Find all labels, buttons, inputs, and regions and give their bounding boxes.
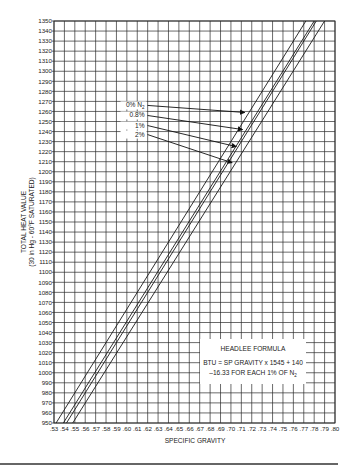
x-tick-label: .58 bbox=[102, 425, 111, 432]
y-tick-label: 1240 bbox=[38, 128, 52, 135]
y-tick-label: 1170 bbox=[39, 198, 53, 205]
x-tick-label: .66 bbox=[185, 425, 194, 432]
headlee-chart: 9509609709809901000101010201030104010501… bbox=[0, 0, 356, 470]
formula-title: HEADLEE FORMULA bbox=[221, 345, 286, 352]
x-tick-label: .61 bbox=[133, 425, 142, 432]
x-tick-label: .71 bbox=[237, 425, 246, 432]
y-tick-label: 1100 bbox=[39, 268, 53, 275]
y-tick-label: 1140 bbox=[39, 228, 53, 235]
x-tick-label: .59 bbox=[112, 425, 121, 432]
y-tick-label: 1150 bbox=[39, 218, 53, 225]
y-tick-label: 1250 bbox=[38, 118, 52, 125]
y-tick-label: 1110 bbox=[39, 258, 52, 265]
annotation-arrow bbox=[148, 126, 237, 147]
x-tick-label: .55 bbox=[71, 425, 80, 432]
x-tick-label: .65 bbox=[175, 425, 184, 432]
annotation-arrow bbox=[148, 135, 232, 163]
annotation-label: 0.8% bbox=[130, 111, 145, 118]
y-tick-label: 960 bbox=[42, 409, 53, 416]
y-tick-label: 1320 bbox=[38, 47, 52, 54]
y-tick-label: 1070 bbox=[38, 299, 52, 306]
y-tick-label: 1000 bbox=[38, 369, 52, 376]
x-tick-label: .73 bbox=[258, 425, 267, 432]
y-tick-label: 1310 bbox=[38, 57, 52, 64]
x-tick-label: .69 bbox=[216, 425, 225, 432]
x-tick-label: .56 bbox=[81, 425, 90, 432]
x-tick-label: .68 bbox=[206, 425, 215, 432]
annotation-label: 1% bbox=[135, 122, 145, 129]
y-axis-label: TOTAL HEAT VALUE (30 in Hg - 60°F SATURA… bbox=[20, 177, 36, 267]
x-tick-label: .79 bbox=[320, 425, 329, 432]
y-tick-label: 1350 bbox=[38, 17, 52, 24]
y-tick-label: 1120 bbox=[39, 248, 53, 255]
y-tick-label: 1230 bbox=[38, 138, 52, 145]
x-tick-label: .75 bbox=[279, 425, 288, 432]
y-tick-label: 1090 bbox=[38, 279, 52, 286]
y-tick-label: 1060 bbox=[38, 309, 52, 316]
formula-line-1: BTU = SP GRAVITY x 1545 + 140 bbox=[203, 359, 303, 366]
x-tick-label: .72 bbox=[247, 425, 256, 432]
y-tick-label: 1050 bbox=[38, 319, 52, 326]
y-tick-label: 1020 bbox=[38, 349, 52, 356]
y-tick-label: 1330 bbox=[38, 37, 52, 44]
x-axis-label: SPECIFIC GRAVITY bbox=[165, 437, 226, 444]
y-tick-label: 1180 bbox=[39, 188, 53, 195]
y-tick-label: 1270 bbox=[38, 98, 52, 105]
y-tick-label: 1220 bbox=[38, 148, 52, 155]
x-tick-label: .54 bbox=[60, 425, 69, 432]
annotation-arrow bbox=[148, 115, 243, 129]
y-tick-label: 990 bbox=[42, 379, 53, 386]
y-axis-ticks: 9509609709809901000101010201030104010501… bbox=[38, 17, 52, 426]
x-tick-label: .53 bbox=[50, 425, 59, 432]
y-tick-label: 1130 bbox=[39, 238, 53, 245]
x-tick-label: .57 bbox=[91, 425, 100, 432]
headlee-formula-box: HEADLEE FORMULA BTU = SP GRAVITY x 1545 … bbox=[200, 339, 306, 384]
y-tick-label: 1040 bbox=[38, 329, 52, 336]
y-tick-label: 970 bbox=[42, 399, 53, 406]
x-tick-label: .64 bbox=[164, 425, 173, 432]
y-tick-label: 1160 bbox=[39, 208, 53, 215]
x-tick-label: .78 bbox=[310, 425, 319, 432]
y-tick-label: 1340 bbox=[38, 27, 52, 34]
annotations: 0% N20.8%1%2% bbox=[121, 101, 245, 162]
x-tick-label: .74 bbox=[268, 425, 277, 432]
y-tick-label: 1200 bbox=[38, 168, 52, 175]
annotation-label: 2% bbox=[135, 131, 145, 138]
x-tick-label: .67 bbox=[195, 425, 204, 432]
y-tick-label: 1300 bbox=[38, 67, 52, 74]
x-tick-label: .60 bbox=[123, 425, 132, 432]
x-tick-label: .76 bbox=[289, 425, 298, 432]
x-axis-ticks: .53.54.55.56.57.58.59.60.61.62.63.64.65.… bbox=[50, 425, 340, 432]
y-tick-label: 1030 bbox=[38, 339, 52, 346]
y-tick-label: 1260 bbox=[38, 108, 52, 115]
x-tick-label: .70 bbox=[227, 425, 236, 432]
x-tick-label: .80 bbox=[331, 425, 340, 432]
x-tick-label: .62 bbox=[143, 425, 152, 432]
y-tick-label: 1010 bbox=[38, 359, 52, 366]
y-tick-label: 980 bbox=[42, 389, 53, 396]
y-tick-label: 1080 bbox=[38, 289, 52, 296]
svg-text:(30 in Hg - 60°F SATURATED): (30 in Hg - 60°F SATURATED) bbox=[28, 177, 36, 267]
y-tick-label: 1190 bbox=[39, 178, 53, 185]
x-tick-label: .63 bbox=[154, 425, 163, 432]
y-tick-label: 1210 bbox=[38, 158, 52, 165]
y-tick-label: 1290 bbox=[38, 78, 52, 85]
x-tick-label: .77 bbox=[299, 425, 308, 432]
y-tick-label: 1280 bbox=[38, 88, 52, 95]
svg-text:TOTAL HEAT VALUE: TOTAL HEAT VALUE bbox=[20, 190, 27, 253]
